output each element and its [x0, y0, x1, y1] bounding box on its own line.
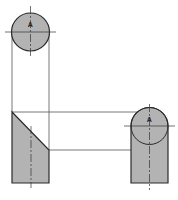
- front-view: [12, 112, 49, 188]
- side-view: A: [124, 104, 175, 190]
- side-view-label: A: [147, 116, 152, 123]
- front-view-shape: [12, 112, 49, 183]
- projection-drawing: A A: [0, 0, 178, 200]
- top-view-label: A: [28, 21, 33, 28]
- top-view: A: [5, 6, 56, 57]
